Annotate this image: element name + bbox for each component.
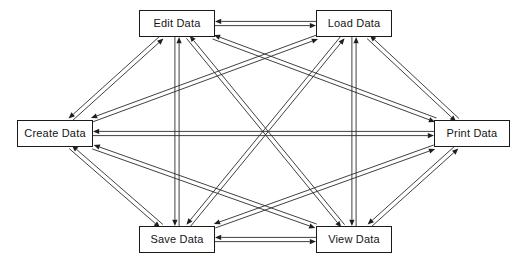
edge-edit-to-print — [212, 39, 435, 122]
edge-view-to-edit — [190, 36, 345, 225]
node-view-data[interactable]: View Data — [316, 226, 392, 253]
edge-create-to-edit — [71, 39, 163, 122]
node-load-data-label: Load Data — [328, 18, 381, 29]
edge-print-to-load — [370, 35, 459, 118]
node-edit-data-label: Edit Data — [153, 18, 200, 29]
edge-load-to-create — [91, 35, 317, 118]
edge-view-to-save — [215, 235, 316, 240]
edge-create-to-view — [92, 149, 315, 228]
edge-edit-to-view — [186, 38, 341, 227]
node-save-data[interactable]: Save Data — [139, 226, 215, 253]
edge-save-to-view — [215, 239, 316, 244]
node-save-data-label: Save Data — [150, 234, 203, 245]
node-edit-data[interactable]: Edit Data — [139, 10, 215, 37]
node-create-data-label: Create Data — [24, 128, 86, 139]
edge-view-to-print — [370, 149, 458, 228]
edge-load-to-edit — [215, 19, 316, 24]
edge-create-to-load — [92, 39, 318, 122]
edge-save-to-load — [190, 38, 345, 227]
node-create-data[interactable]: Create Data — [17, 120, 93, 147]
edge-load-to-save — [186, 36, 341, 225]
node-print-data-label: Print Data — [447, 128, 498, 139]
diagram-canvas: Create Data Edit Data Load Data Print Da… — [0, 0, 523, 264]
node-print-data[interactable]: Print Data — [434, 120, 510, 147]
edge-edit-to-load — [215, 23, 316, 28]
node-view-data-label: View Data — [328, 234, 380, 245]
edge-create-to-save — [69, 149, 160, 228]
node-load-data[interactable]: Load Data — [316, 10, 392, 37]
edge-print-to-create — [93, 129, 434, 134]
edge-save-to-print — [215, 149, 435, 228]
edge-save-to-create — [72, 145, 163, 224]
edge-edit-to-create — [69, 35, 161, 118]
